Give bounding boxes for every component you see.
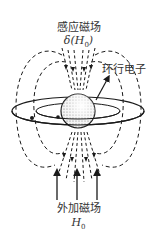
external-field-label: 外加磁场 [0,203,157,215]
external-field-symbol: H0 [0,217,157,233]
induced-field-symbol: δ(H0) [0,35,157,51]
nucleus [61,94,95,128]
electron-dot [56,115,60,119]
circulating-electron-label: 环行电子 [102,64,146,76]
induced-field-label: 感应磁场 [0,22,157,34]
induced-field-lines-top [62,48,95,90]
electron-pointer-arrow [96,78,108,100]
electron-dot [30,116,34,120]
